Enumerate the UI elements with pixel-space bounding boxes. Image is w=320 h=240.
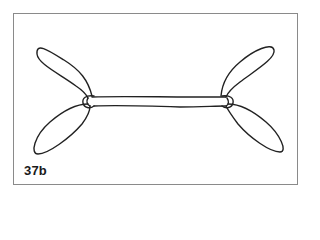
loop-upper-left xyxy=(37,48,92,98)
loop-lower-left xyxy=(34,104,90,154)
rope-lower-strand xyxy=(94,106,225,107)
loop-upper-right xyxy=(221,47,274,97)
loop-lower-right xyxy=(226,104,283,152)
knot-right-inner xyxy=(226,98,228,106)
figure-label: 37b xyxy=(24,163,47,178)
knot-left-inner xyxy=(87,98,90,106)
